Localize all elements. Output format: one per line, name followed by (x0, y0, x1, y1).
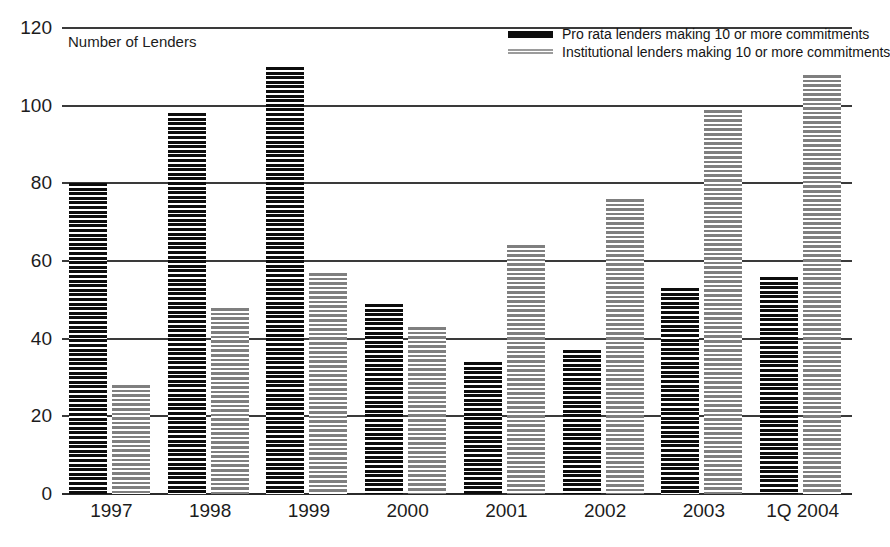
y-tick-label-40: 40 (6, 329, 52, 348)
x-tick-label-2002: 2002 (556, 500, 655, 522)
bar-pro-rata-1999 (266, 67, 304, 494)
bar-group-2003 (661, 28, 742, 494)
y-axis-title: Number of Lenders (68, 33, 196, 50)
bar-pro-rata-2000 (365, 304, 403, 494)
legend-item-institutional: Institutional lenders making 10 or more … (508, 44, 858, 60)
y-tick-label-100: 100 (6, 96, 52, 115)
x-tick-label-1998: 1998 (161, 500, 260, 522)
y-tick-label-120: 120 (6, 18, 52, 37)
bar-institutional-2001 (507, 245, 545, 494)
bar-institutional-1998 (211, 308, 249, 494)
x-tick-label-2003: 2003 (655, 500, 754, 522)
legend-swatch-pro-rata-icon (508, 31, 553, 38)
bar-pro-rata-2001 (464, 362, 502, 494)
bar-institutional-2000 (408, 327, 446, 494)
x-tick-label-1999: 1999 (260, 500, 359, 522)
x-tick-label-1Q-2004: 1Q 2004 (753, 500, 852, 522)
bar-group-2000 (365, 28, 446, 494)
bar-institutional-1Q-2004 (803, 75, 841, 494)
bar-institutional-2002 (606, 199, 644, 494)
x-tick-label-2000: 2000 (358, 500, 457, 522)
y-axis: 120100806040200 (0, 28, 52, 494)
x-tick-label-2001: 2001 (457, 500, 556, 522)
bar-institutional-1999 (309, 273, 347, 494)
bar-group-1999 (266, 28, 347, 494)
legend-swatch-institutional-icon (508, 49, 553, 55)
y-tick-label-0: 0 (6, 484, 52, 503)
bar-institutional-2003 (704, 110, 742, 494)
y-tick-label-80: 80 (6, 173, 52, 192)
bar-pro-rata-2002 (563, 350, 601, 494)
x-axis: 19971998199920002001200220031Q 2004 (62, 500, 852, 530)
bar-group-2002 (563, 28, 644, 494)
x-tick-label-1997: 1997 (62, 500, 161, 522)
y-tick-label-20: 20 (6, 406, 52, 425)
legend-label-pro-rata: Pro rata lenders making 10 or more commi… (562, 26, 869, 42)
bar-pro-rata-1Q-2004 (760, 277, 798, 494)
legend-label-institutional: Institutional lenders making 10 or more … (562, 44, 890, 60)
plot-area (62, 28, 852, 494)
bar-group-1998 (168, 28, 249, 494)
chart-legend: Pro rata lenders making 10 or more commi… (508, 26, 858, 62)
legend-item-pro-rata: Pro rata lenders making 10 or more commi… (508, 26, 858, 42)
bar-pro-rata-1997 (69, 183, 107, 494)
bar-group-2001 (464, 28, 545, 494)
bar-pro-rata-1998 (168, 113, 206, 494)
bar-pro-rata-2003 (661, 288, 699, 494)
bar-institutional-1997 (112, 385, 150, 494)
bar-group-1997 (69, 28, 150, 494)
bar-group-1Q-2004 (760, 28, 841, 494)
y-tick-label-60: 60 (6, 251, 52, 270)
